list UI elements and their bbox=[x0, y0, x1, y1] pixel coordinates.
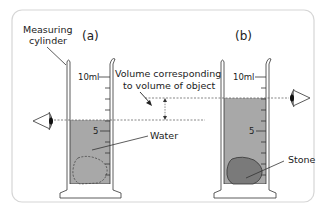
volume-annotation-line2: to volume of object bbox=[123, 80, 215, 91]
measuring-cylinder-label-2: cylinder bbox=[29, 35, 67, 46]
measuring-cylinder-label: Measuring bbox=[23, 24, 72, 35]
panel-label-b: (b) bbox=[235, 29, 252, 43]
water-a bbox=[70, 120, 110, 184]
tick-label-5-b: 5 bbox=[249, 126, 254, 136]
tick-label-10ml-a: 10ml bbox=[78, 72, 99, 82]
volume-annotation-line1: Volume corresponding bbox=[115, 68, 221, 79]
tick-label-5-a: 5 bbox=[93, 126, 98, 136]
diagram-canvas: 10ml 5 Measuring cylinder (a) Water bbox=[0, 0, 326, 214]
panel-label-a: (a) bbox=[82, 29, 99, 43]
tick-label-10ml-b: 10ml bbox=[233, 72, 254, 82]
stone-label: Stone bbox=[288, 154, 316, 165]
water-label: Water bbox=[150, 130, 178, 141]
